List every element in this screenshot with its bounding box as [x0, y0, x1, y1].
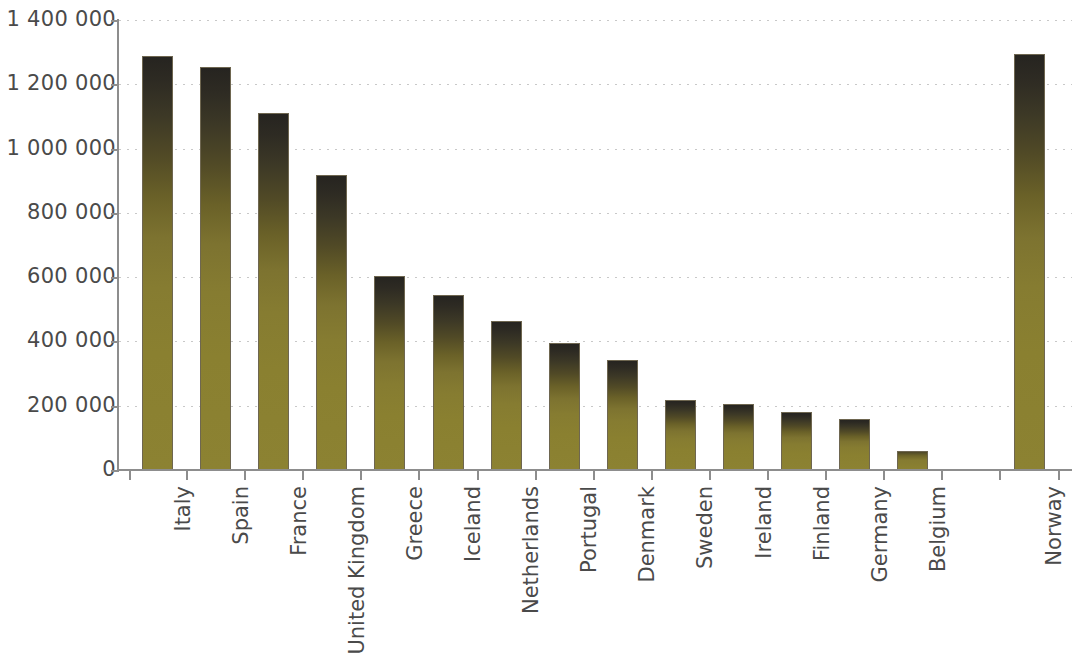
bar [491, 321, 522, 470]
bar [549, 343, 580, 470]
bar [897, 451, 928, 470]
x-tick-mark [941, 471, 943, 480]
x-tick-mark [999, 471, 1001, 480]
x-axis-label: Sweden [691, 486, 719, 569]
x-tick-mark [651, 471, 653, 480]
bar [374, 276, 405, 470]
x-axis-label: France [285, 486, 313, 556]
y-tick-label: 1 400 000 [6, 7, 116, 31]
bar [433, 295, 464, 470]
x-tick-mark [129, 471, 131, 480]
bar [142, 56, 173, 470]
x-axis-label: Portugal [575, 486, 603, 573]
gridline [119, 20, 1072, 21]
bar [1014, 54, 1045, 470]
x-axis-label: Norway [1040, 486, 1068, 566]
x-tick-mark [186, 471, 188, 480]
x-tick-mark [883, 471, 885, 480]
bar [258, 113, 289, 470]
x-tick-mark [535, 471, 537, 480]
x-tick-mark [302, 471, 304, 480]
bar [316, 175, 347, 470]
x-axis-label: United Kingdom [343, 486, 371, 655]
bar [723, 404, 754, 470]
bar [839, 419, 870, 470]
x-tick-mark [477, 471, 479, 480]
bar [665, 400, 696, 470]
x-axis-label: Netherlands [517, 486, 545, 614]
x-axis-label: Spain [227, 486, 255, 545]
x-tick-mark [767, 471, 769, 480]
y-tick-label: 1 200 000 [6, 71, 116, 95]
x-axis-label: Italy [169, 486, 197, 532]
x-tick-mark [825, 471, 827, 480]
y-tick-label: 200 000 [27, 393, 116, 417]
x-tick-mark [418, 471, 420, 480]
x-axis-label: Finland [808, 486, 836, 561]
x-tick-mark [709, 471, 711, 480]
bar-chart: 0200 000400 000600 000800 0001 000 0001 … [0, 0, 1076, 656]
x-axis-label: Belgium [924, 486, 952, 572]
x-axis-line [117, 469, 1072, 471]
bar [607, 360, 638, 470]
y-axis-line [117, 19, 119, 471]
x-axis-label: Greece [401, 486, 429, 561]
x-axis-label: Germany [866, 486, 894, 583]
x-tick-mark [1058, 471, 1060, 480]
bar [781, 412, 812, 470]
gridline [119, 84, 1072, 85]
y-tick-label: 600 000 [27, 264, 116, 288]
x-axis-label: Ireland [750, 486, 778, 559]
x-tick-mark [244, 471, 246, 480]
y-tick-label: 1 000 000 [6, 136, 116, 160]
x-tick-mark [593, 471, 595, 480]
x-axis-label: Denmark [633, 486, 661, 583]
y-tick-label: 400 000 [27, 328, 116, 352]
x-axis-label: Iceland [459, 486, 487, 562]
y-tick-label: 800 000 [27, 200, 116, 224]
x-tick-mark [360, 471, 362, 480]
bar [200, 67, 231, 470]
y-tick-label: 0 [102, 457, 116, 481]
